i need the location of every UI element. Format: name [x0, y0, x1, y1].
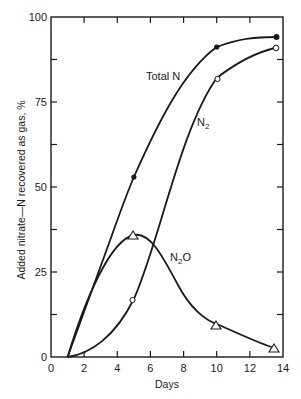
series-n2o-markers: [128, 231, 279, 352]
series-n2-line: [68, 48, 275, 357]
y-tick-label: 100: [29, 11, 47, 23]
y-tick-label: 25: [35, 266, 47, 278]
x-tick-label: 14: [277, 362, 289, 374]
x-ticks-bottom: [84, 351, 250, 357]
data-point: [130, 297, 135, 302]
data-point: [269, 344, 279, 352]
x-tick-label: 12: [244, 362, 256, 374]
y-axis-title: Added nitrate—N recovered as gas, %: [15, 100, 27, 279]
series-label-n2o: N2O: [170, 251, 191, 266]
y-tick-label: 0: [41, 351, 47, 363]
x-tick-label: 8: [181, 362, 187, 374]
x-ticks-top: [84, 17, 250, 23]
series-label-n2: N2: [197, 116, 210, 131]
x-tick-label: 10: [211, 362, 223, 374]
series-n2-markers: [130, 45, 279, 302]
y-tick-label: 75: [35, 96, 47, 108]
data-point: [274, 34, 280, 40]
data-point: [215, 76, 220, 81]
data-point: [214, 44, 219, 49]
x-tick-label: 2: [81, 362, 87, 374]
y-ticks-left: [51, 60, 57, 315]
y-tick-labels: 0 25 50 75 100: [29, 11, 47, 363]
y-tick-label: 50: [35, 181, 47, 193]
series-total-n-line: [68, 37, 275, 357]
chart: 0 2 4 6 8 10 12 14 0 25 50 75 100 Days A…: [0, 0, 301, 399]
data-point: [273, 45, 279, 51]
data-point: [131, 174, 136, 179]
x-axis-title: Days: [155, 378, 179, 390]
x-tick-label: 4: [114, 362, 120, 374]
y-ticks-right: [277, 60, 283, 315]
x-tick-labels: 0 2 4 6 8 10 12 14: [48, 362, 289, 374]
series-label-total-n: Total N: [146, 70, 180, 82]
x-tick-label: 6: [147, 362, 153, 374]
x-tick-label: 0: [48, 362, 54, 374]
